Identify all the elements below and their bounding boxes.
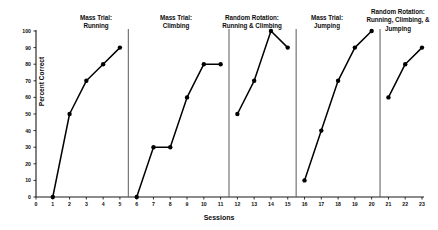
chart-container: Mass Trial: Running Mass Trial: Climbing… <box>0 0 438 230</box>
chart-plot <box>0 0 438 230</box>
